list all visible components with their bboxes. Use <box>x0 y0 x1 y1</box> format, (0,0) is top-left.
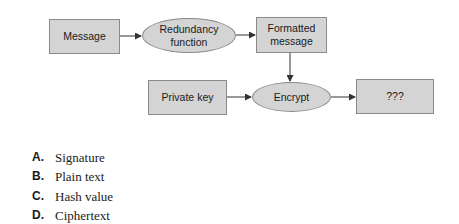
option-letter: A. <box>32 150 44 164</box>
option-text: Plain text <box>55 169 104 185</box>
answer-option-d: D. Ciphertext <box>0 208 459 224</box>
option-text: Signature <box>55 150 105 166</box>
answer-option-a: A. Signature <box>0 150 459 168</box>
node-message: Message <box>49 19 120 54</box>
option-text: Hash value <box>55 189 113 205</box>
option-letter: B. <box>32 169 44 183</box>
node-encrypt: Encrypt <box>252 82 331 112</box>
node-unknown-output: ??? <box>356 79 434 114</box>
node-private-key: Private key <box>148 80 227 115</box>
option-letter: D. <box>32 208 44 222</box>
answer-option-c: C. Hash value <box>0 189 459 207</box>
answer-option-b: B. Plain text <box>0 169 459 187</box>
node-formatted-message: Formatted message <box>256 17 327 53</box>
node-redundancy-function: Redundancy function <box>142 18 236 53</box>
option-text: Ciphertext <box>55 208 110 224</box>
option-letter: C. <box>32 189 44 203</box>
